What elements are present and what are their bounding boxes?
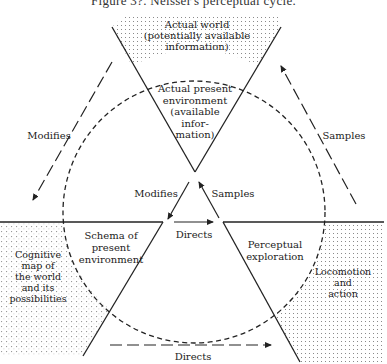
outer-directs-label: Directs	[168, 351, 218, 363]
perceptual-exploration-label: Perceptual exploration	[240, 239, 310, 263]
locomotion-label: Locomotion and action	[308, 266, 378, 299]
inner-modifies-label: Modifies	[132, 188, 180, 200]
inner-samples-label: Samples	[211, 188, 255, 200]
actual-present-environment-label: Actual present environment (available in…	[145, 83, 245, 141]
schema-label: Schema of present environment	[75, 230, 147, 266]
outer-samples-label: Samples	[319, 130, 369, 142]
outer-modifies-label: Modifies	[24, 130, 74, 142]
actual-world-label: Actual world (potentially available info…	[132, 19, 262, 52]
diagram-graphics	[0, 0, 387, 364]
cognitive-map-label: Cognitive map of the world and its possi…	[6, 249, 70, 304]
perceptual-cycle-diagram: Figure 3?. Neisser's perceptual cycle.	[0, 0, 387, 364]
inner-directs-label: Directs	[170, 229, 218, 241]
